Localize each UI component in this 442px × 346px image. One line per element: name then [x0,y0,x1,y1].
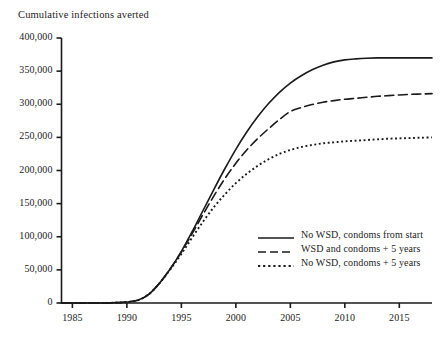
y-tick-label: 250,000 [19,130,52,141]
chart-figure: Cumulative infections averted 050,000100… [0,0,442,346]
legend-item: WSD and condoms + 5 years [258,241,423,255]
x-tick-label: 2010 [315,312,375,323]
plot-area [0,0,442,346]
x-tick-label: 1990 [97,312,157,323]
legend: No WSD, condoms from startWSD and condom… [258,227,423,269]
y-tick-label: 350,000 [19,64,52,75]
legend-label: WSD and condoms + 5 years [301,243,421,254]
y-tick-label: 0 [47,296,52,307]
y-tick-label: 300,000 [19,97,52,108]
legend-line-sample-solid [258,229,294,239]
legend-line-sample-dashed [258,243,294,253]
x-tick-label: 2015 [369,312,429,323]
series-line-1 [62,94,433,303]
y-tick-label: 400,000 [19,31,52,42]
x-tick-label: 2005 [260,312,320,323]
x-tick-label: 2000 [206,312,266,323]
legend-item: No WSD, condoms + 5 years [258,255,423,269]
y-tick-label: 150,000 [19,197,52,208]
legend-label: No WSD, condoms + 5 years [301,257,421,268]
y-tick-label: 200,000 [19,164,52,175]
x-tick-label: 1985 [42,312,102,323]
legend-line-sample-dotted [258,257,294,267]
legend-item: No WSD, condoms from start [258,227,423,241]
y-tick-label: 50,000 [24,263,52,274]
series-line-2 [62,137,433,303]
legend-label: No WSD, condoms from start [301,229,423,240]
x-tick-label: 1995 [151,312,211,323]
y-tick-label: 100,000 [19,230,52,241]
